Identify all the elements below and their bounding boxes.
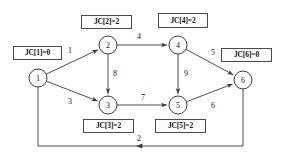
jc-4-label-box: JC[4]=2	[158, 13, 208, 28]
graph-node-label-3: 3	[106, 101, 110, 110]
arrowhead-6-to-1	[136, 144, 142, 149]
jc-6-label-box: JC[6]=0	[221, 48, 272, 62]
edge-weight-4-6: 5	[211, 48, 215, 57]
edge-weight-1-2: 1	[68, 46, 72, 55]
jc-2-label-box: JC[2]=2	[81, 15, 132, 29]
jc-1-label-box: JC[1]=0	[13, 46, 62, 60]
edge-weight-5-6: 6	[211, 101, 215, 110]
edge-weight-6-1: 2	[137, 134, 141, 143]
jc-5-label-box: JC[5]=2	[155, 119, 206, 133]
nodes-layer: 123456	[29, 36, 252, 114]
graph-svg: 123456 138479562	[0, 0, 282, 161]
graph-node-label-1: 1	[36, 74, 40, 83]
edge-weight-4-5: 9	[184, 69, 188, 78]
graph-node-label-5: 5	[176, 101, 180, 110]
edge-weight-2-3: 8	[113, 69, 117, 78]
graph-node-label-4: 4	[176, 41, 180, 50]
graph-diagram-canvas: 123456 138479562 JC[1]=0JC[2]=2JC[4]=2JC…	[0, 0, 282, 161]
graph-node-label-6: 6	[241, 76, 245, 85]
edge-5-to-6	[186, 84, 232, 102]
graph-node-label-2: 2	[106, 41, 110, 50]
edge-weight-3-5: 7	[141, 93, 145, 102]
jc-3-label-box: JC[3]=2	[83, 119, 134, 133]
edge-weight-2-4: 4	[137, 32, 141, 41]
edge-weight-1-3: 3	[68, 97, 72, 106]
